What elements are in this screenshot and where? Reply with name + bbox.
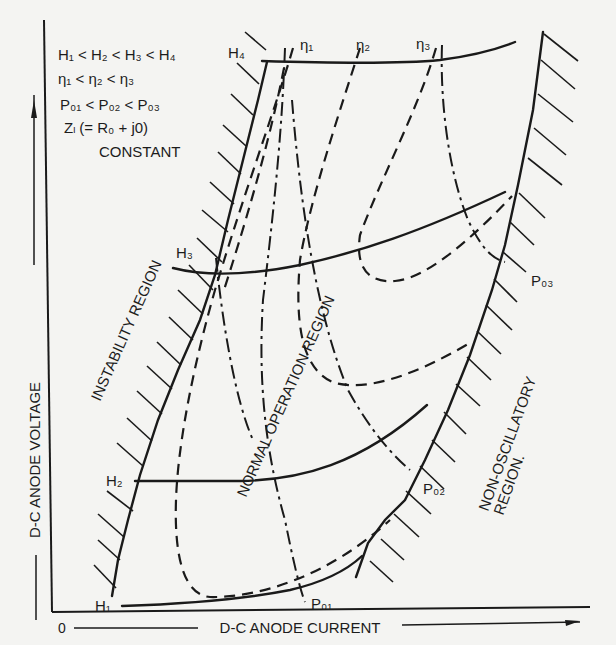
curve-p01-upper [216, 258, 253, 440]
region-labels: INSTABILITY REGION NORMAL OPERATION REGI… [87, 257, 539, 517]
legend-p-order: P₀₁ < P₀₂ < P₀₃ [60, 96, 160, 113]
legend-zl: Zₗ (= R₀ + j0) [64, 119, 148, 136]
non-oscillatory-hatching [370, 34, 578, 582]
x-axis-label: D-C ANODE CURRENT [220, 619, 381, 636]
label-h3: H₃ [176, 244, 193, 261]
non-oscillatory-boundary-line [356, 32, 543, 577]
x-label-guide-right [402, 622, 580, 625]
origin-label: 0 [58, 620, 66, 636]
efficiency-curves [176, 48, 512, 597]
instability-boundary [94, 32, 267, 596]
label-h4: H₄ [228, 44, 245, 61]
magnetron-performance-chart: D-C ANODE VOLTAGE 0 D-C ANODE CURRENT H₁… [0, 0, 616, 645]
x-axis-arrow-icon [565, 620, 580, 626]
label-h2: H₂ [106, 472, 123, 489]
output-power-curves [216, 45, 505, 602]
curve-eta2 [298, 48, 468, 385]
label-p01: P₀₁ [311, 595, 332, 612]
y-axis-label-group: D-C ANODE VOLTAGE [26, 95, 43, 620]
legend-eta-order: η₁ < η₂ < η₃ [58, 70, 134, 87]
legend: H₁ < H₂ < H₃ < H₄ η₁ < η₂ < η₃ P₀₁ < P₀₂… [58, 46, 180, 160]
legend-h-order: H₁ < H₂ < H₃ < H₄ [58, 46, 176, 63]
label-eta1: η₁ [300, 36, 313, 53]
curve-p01 [261, 48, 305, 602]
curve-eta3 [359, 48, 512, 281]
curve-p02 [292, 100, 410, 470]
label-h1: H₁ [95, 597, 111, 614]
y-axis-arrow-icon [31, 100, 37, 118]
curve-p03 [442, 45, 505, 262]
instability-region-label: INSTABILITY REGION [87, 257, 164, 403]
label-eta3: η₃ [416, 35, 430, 52]
x-axis-label-group: 0 D-C ANODE CURRENT [58, 619, 580, 636]
y-axis [44, 20, 52, 612]
curve-eta1-branch [224, 68, 284, 290]
label-eta2: η₂ [356, 36, 370, 53]
instability-hatching [94, 32, 266, 588]
non-oscillatory-boundary [356, 32, 578, 582]
label-p02: P₀₂ [423, 480, 445, 497]
legend-constant: CONSTANT [99, 143, 180, 160]
label-p03: P₀₃ [531, 272, 553, 289]
y-axis-label: D-C ANODE VOLTAGE [26, 382, 43, 538]
